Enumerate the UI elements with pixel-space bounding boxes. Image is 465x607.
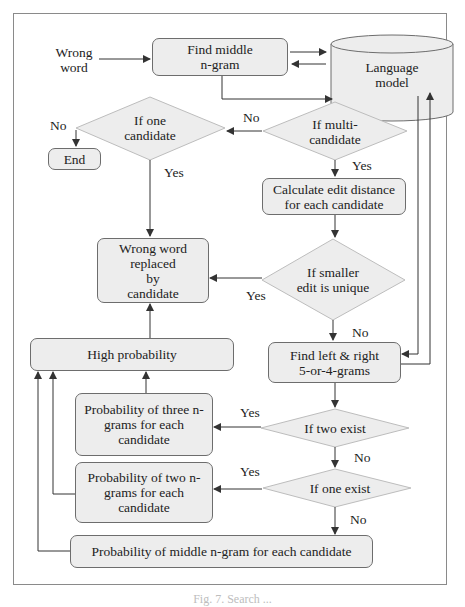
decision-if-multi-candidate-label: If multi- candidate	[285, 117, 385, 147]
decision-if-two-exist-label: If two exist	[285, 421, 385, 436]
node-label: Probability of middle n-gram for each ca…	[91, 544, 351, 559]
node-probability-middle-ngram: Probability of middle n-gram for each ca…	[70, 535, 373, 568]
edge-label-one-no: No	[50, 118, 67, 133]
node-wrong-word-replaced: Wrong word replaced by candidate	[97, 238, 209, 303]
edge-label-two-no: No	[354, 450, 371, 465]
node-label: Probability of three n- grams for each c…	[84, 402, 204, 447]
edge-label-one-yes: Yes	[164, 165, 184, 180]
decision-if-one-candidate-label: If one candidate	[100, 113, 200, 143]
node-label: Find middle n-gram	[187, 42, 253, 72]
node-find-middle-ngram: Find middle n-gram	[152, 38, 288, 76]
input-wrong-word: Wrong word	[50, 45, 98, 75]
node-find-left-right: Find left & right 5-or-4-grams	[268, 342, 401, 383]
edge-label-oneexist-no: No	[350, 512, 367, 527]
node-label: Calculate edit distance for each candida…	[273, 182, 395, 212]
node-label: End	[64, 152, 86, 167]
node-high-probability: High probability	[30, 338, 234, 371]
node-label: High probability	[87, 347, 177, 362]
node-language-model: Language model	[331, 60, 453, 90]
decision-if-one-exist-label: If one exist	[290, 481, 390, 496]
node-label: Probability of two n- grams for each can…	[88, 470, 201, 515]
node-calculate-edit-distance: Calculate edit distance for each candida…	[262, 178, 406, 215]
edge-label-unique-yes: Yes	[246, 288, 266, 303]
edge-label-oneexist-yes: Yes	[240, 464, 260, 479]
figure-caption: Fig. 7. Search ...	[0, 592, 465, 607]
edge-label-two-yes: Yes	[240, 405, 260, 420]
node-end: End	[48, 148, 101, 170]
edge-label-unique-no: No	[352, 325, 369, 340]
edge-label-multi-yes: Yes	[352, 158, 372, 173]
node-probability-three-ngrams: Probability of three n- grams for each c…	[75, 393, 213, 456]
node-label: Wrong word replaced by candidate	[119, 241, 187, 301]
node-probability-two-ngrams: Probability of two n- grams for each can…	[75, 462, 213, 523]
node-label: Find left & right 5-or-4-grams	[290, 348, 379, 378]
edge-label-multi-no: No	[243, 110, 260, 125]
decision-if-smaller-unique-label: If smaller edit is unique	[273, 265, 393, 295]
